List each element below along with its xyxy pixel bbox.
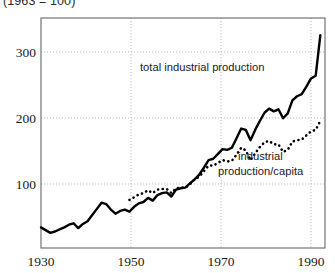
y-tick-label-200: 200 xyxy=(16,111,37,126)
x-tick-label-1970: 1970 xyxy=(208,254,235,269)
y-tick-label-300: 300 xyxy=(16,45,37,60)
x-tick-label-1950: 1950 xyxy=(118,254,145,269)
y-tick-label-100: 100 xyxy=(16,177,37,192)
chart-canvas: 300 200 100 1930 1950 1970 1990 total in… xyxy=(0,0,335,273)
series-industrial-production-per-capita xyxy=(129,121,320,200)
line-industrial-production-per-capita xyxy=(129,121,320,200)
industrial-production-chart-figure: (1963 = 100) 300 200 100 1930 1950 xyxy=(0,0,335,273)
annotation-per-capita-line2: production/capita xyxy=(218,165,304,177)
x-tick-label-1990: 1990 xyxy=(298,254,325,269)
annotation-total-industrial-production: total industrial production xyxy=(140,61,264,73)
annotation-per-capita-line1: industrial xyxy=(238,150,283,162)
x-tick-label-1930: 1930 xyxy=(28,254,55,269)
